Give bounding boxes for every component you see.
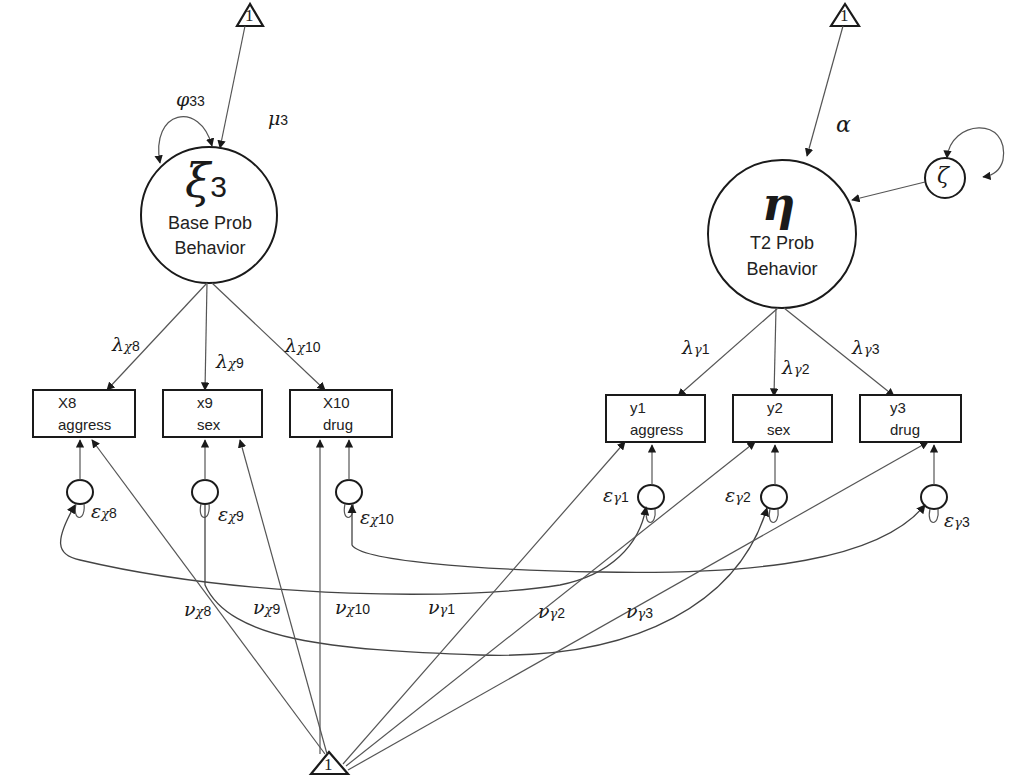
param-lambda-y1: λγ1 [682, 336, 710, 358]
indicator-x10-code: X10 [323, 394, 350, 411]
error-variance-loop-y3 [929, 509, 938, 523]
indicator-y3-name: drug [890, 421, 920, 438]
param-nu-y2: νγ2 [538, 600, 565, 622]
param-epsilon-x10: εχ10 [360, 506, 394, 528]
latent-xi3-name-line2: Behavior [150, 238, 270, 259]
indicator-y2-name: sex [767, 421, 790, 438]
latent-eta-symbol: η [762, 180, 795, 228]
param-lambda-y2: λγ2 [782, 356, 810, 378]
error-variance-loop-y2 [769, 509, 778, 523]
indicator-y1-name: aggress [630, 421, 683, 438]
param-nu-x8: νχ8 [184, 598, 211, 620]
error-circle-x9 [192, 480, 218, 504]
disturbance-zeta-symbol: ζ [937, 163, 949, 188]
constant-label-top-left: 1 [245, 6, 254, 26]
sem-path-diagram [0, 0, 1032, 784]
error-circle-x8 [67, 480, 93, 504]
param-lambda-y3: λγ3 [852, 336, 880, 358]
intercept-path-y1 [343, 442, 625, 764]
param-epsilon-y2: εγ2 [725, 484, 751, 506]
error-circle-y1 [638, 485, 664, 509]
constant-label-bottom: 1 [324, 755, 333, 775]
param-epsilon-y1: εγ1 [603, 484, 629, 506]
param-lambda-x9: λχ9 [216, 350, 244, 372]
param-lambda-x8: λχ8 [112, 333, 140, 355]
path-mu3 [220, 26, 245, 148]
param-epsilon-x8: εχ8 [91, 500, 117, 522]
latent-xi3-symbol: ξ3 [185, 158, 227, 210]
constant-label-top-right: 1 [840, 6, 849, 26]
param-nu-x10: νχ10 [335, 596, 370, 618]
indicator-x9-name: sex [197, 416, 220, 433]
error-variance-loop-y1 [646, 509, 655, 523]
indicator-y3-code: y3 [890, 399, 906, 416]
param-nu-x9: νχ9 [253, 596, 280, 618]
latent-xi3-name-line1: Base Prob [150, 213, 270, 234]
error-circle-y2 [761, 485, 787, 509]
indicator-y1-code: y1 [630, 399, 646, 416]
indicator-x8-code: X8 [58, 394, 76, 411]
param-nu-y1: νγ1 [428, 596, 455, 618]
loading-y2 [774, 308, 776, 396]
latent-eta-name-line1: T2 Prob [722, 233, 842, 254]
error-variance-loop-x8 [75, 504, 84, 518]
param-epsilon-x9: εχ9 [218, 503, 244, 525]
param-alpha: α [836, 112, 851, 137]
path-zeta-to-eta [852, 182, 925, 200]
indicator-y2-code: y2 [767, 399, 783, 416]
param-epsilon-y3: εγ3 [944, 509, 970, 531]
path-zeta-variance [947, 128, 1004, 177]
indicator-x8-name: aggress [58, 416, 111, 433]
param-lambda-x10: λχ10 [285, 334, 321, 356]
loading-x9 [205, 283, 207, 390]
param-nu-y3: νγ3 [626, 600, 653, 622]
covariance-ex10-ey3 [352, 505, 925, 572]
indicator-x10-name: drug [323, 416, 353, 433]
param-phi33: φ33 [176, 88, 205, 110]
latent-eta-name-line2: Behavior [722, 259, 842, 280]
error-circle-x10 [336, 480, 362, 504]
indicator-x9-code: x9 [197, 394, 213, 411]
param-mu3: μ3 [268, 107, 288, 129]
